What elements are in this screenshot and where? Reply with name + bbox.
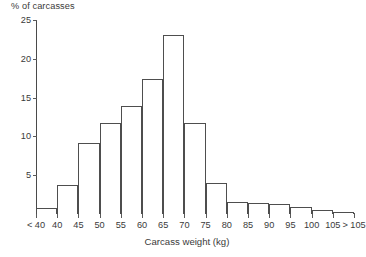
histogram-bar xyxy=(290,207,311,214)
histogram-bar xyxy=(333,212,354,214)
y-axis-tick-mark xyxy=(33,59,37,60)
y-axis-tick-label: 5 xyxy=(26,170,31,180)
histogram-bar xyxy=(100,123,121,214)
y-axis-tick-label: 25 xyxy=(21,15,31,25)
x-axis-tick-label: 50 xyxy=(94,220,104,230)
y-axis-tick-label: 15 xyxy=(21,93,31,103)
histogram-bar xyxy=(312,210,333,214)
x-axis-tick-label: 45 xyxy=(73,220,83,230)
histogram-bar xyxy=(57,185,78,214)
y-axis-tick-mark xyxy=(33,175,37,176)
x-axis-title-text: Carcass weight (kg) xyxy=(131,236,230,247)
x-axis-tick-label: < 40 xyxy=(27,220,45,230)
x-axis-tick-label: 65 xyxy=(158,220,168,230)
plot-area: 510152025 < 4040455055606570758085909510… xyxy=(36,20,354,214)
x-axis-tick-label: 70 xyxy=(179,220,189,230)
histogram-bar xyxy=(248,203,269,214)
x-axis-tick-label: 75 xyxy=(200,220,210,230)
x-axis-tick-label: 80 xyxy=(222,220,232,230)
histogram-bar xyxy=(36,208,57,214)
x-axis-tick-label: 100 xyxy=(304,220,319,230)
x-axis-tick-label: 85 xyxy=(243,220,253,230)
y-axis-title: % of carcasses xyxy=(11,1,75,11)
histogram-bar xyxy=(206,183,227,214)
y-axis-tick-mark xyxy=(33,136,37,137)
x-axis-tick-label: 95 xyxy=(285,220,295,230)
y-axis-tick-mark xyxy=(33,98,37,99)
histogram-bar xyxy=(269,204,290,214)
x-axis-tick-label: > 105 xyxy=(342,220,365,230)
x-axis-tick-label: 90 xyxy=(264,220,274,230)
x-axis-tick-label: 60 xyxy=(137,220,147,230)
histogram-bar xyxy=(163,35,184,214)
y-axis-line xyxy=(36,20,37,214)
histogram-bar xyxy=(142,79,163,214)
histogram-bar xyxy=(78,143,99,214)
x-axis-tick-label: 55 xyxy=(116,220,126,230)
y-axis-tick-mark xyxy=(33,20,37,21)
histogram-bar xyxy=(121,106,142,214)
x-axis-tick-label: 40 xyxy=(52,220,62,230)
histogram-bar xyxy=(227,202,248,214)
histogram-bar xyxy=(184,123,205,214)
x-axis-tick-label: 105 xyxy=(325,220,340,230)
y-axis-tick-label: 10 xyxy=(21,131,31,141)
x-axis-tick-mark xyxy=(354,213,355,218)
y-axis-tick-label: 20 xyxy=(21,54,31,64)
x-axis-title: Carcass weight (kg) xyxy=(0,236,360,247)
